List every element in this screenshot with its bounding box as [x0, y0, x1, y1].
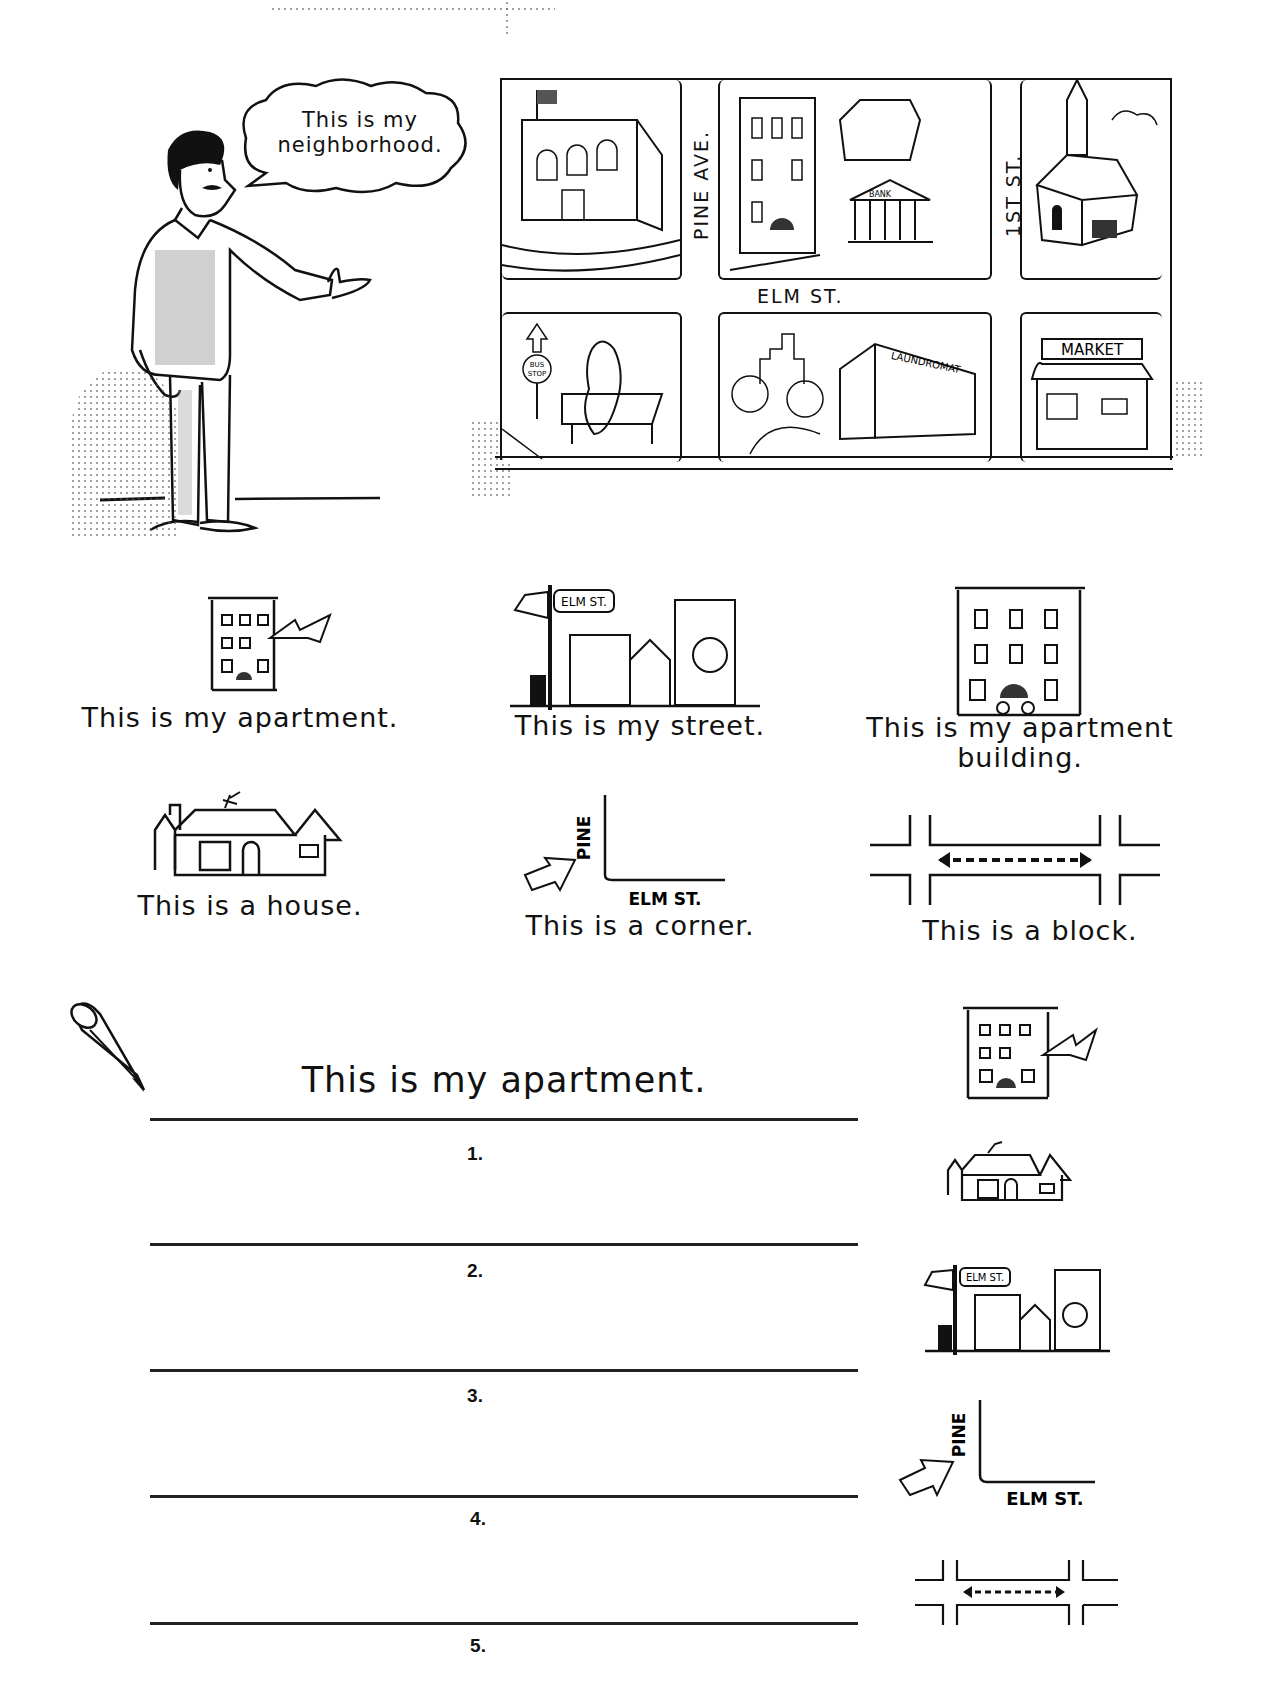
- laundromat-label: LAUNDROMAT: [890, 350, 962, 376]
- writing-line-2[interactable]: [150, 1369, 858, 1372]
- map-block-bus-stop: BUS STOP: [502, 312, 682, 462]
- caption-line-2: building.: [830, 743, 1210, 773]
- corner-icon: PINE ELM ST.: [520, 790, 770, 910]
- map-block-apartments-bank: BANK: [718, 80, 992, 280]
- map-shadow-right: [1168, 380, 1203, 460]
- map-block-park-laundromat: LAUNDROMAT: [718, 312, 992, 462]
- writing-line-1[interactable]: [150, 1243, 858, 1246]
- house-icon: [940, 1140, 1090, 1210]
- vocab-block: This is a block.: [860, 805, 1200, 965]
- neighborhood-map: PINE AVE. BANK 1ST ST. ELM ST. BUS STOP: [500, 78, 1172, 460]
- market-icon: MARKET: [1022, 314, 1162, 462]
- pencil-icon: [62, 1000, 157, 1100]
- speech-line-1: This is my: [255, 108, 465, 133]
- vocab-corner: PINE ELM ST. This is a corner.: [480, 790, 800, 960]
- caption-corner: This is a corner.: [480, 910, 800, 941]
- vocab-apartment: This is my apartment.: [50, 580, 430, 740]
- vocab-house: This is a house.: [80, 780, 420, 940]
- apartment-building-icon: [940, 580, 1100, 720]
- map-block-city-hall: [502, 80, 682, 280]
- church-icon: [1022, 80, 1162, 278]
- block-icon: [870, 810, 1190, 905]
- bus-stop-icon: BUS STOP: [502, 314, 680, 462]
- pine-label: PINE: [949, 1413, 969, 1458]
- bank-label: BANK: [869, 190, 892, 199]
- item-number-5: 5.: [458, 1635, 498, 1657]
- example-sentence: This is my apartment.: [150, 1060, 858, 1100]
- print-mark: [504, 0, 508, 36]
- speech-bubble-text: This is my neighborhood.: [255, 108, 465, 158]
- pine-label: PINE: [574, 816, 594, 861]
- park-laundromat-icon: LAUNDROMAT: [720, 314, 990, 462]
- corner-icon: PINE ELM ST.: [895, 1390, 1105, 1515]
- caption-apartment: This is my apartment.: [50, 702, 430, 733]
- vocab-apartment-building: This is my apartment building.: [830, 575, 1210, 790]
- bus-stop-label-2: STOP: [528, 370, 546, 378]
- map-block-church: [1020, 80, 1162, 280]
- print-mark: [270, 6, 555, 12]
- speech-line-2: neighborhood.: [255, 133, 465, 158]
- block-icon: [915, 1555, 1125, 1630]
- caption-apartment-building: This is my apartment building.: [830, 713, 1210, 773]
- street-icon: ELM ST.: [510, 580, 800, 715]
- shadow: [70, 370, 180, 540]
- street-icon: ELM ST.: [920, 1260, 1120, 1360]
- elm-sign-label: ELM ST.: [966, 1272, 1004, 1283]
- writing-line-example[interactable]: [150, 1118, 858, 1121]
- writing-line-3[interactable]: [150, 1495, 858, 1498]
- caption-street: This is my street.: [460, 710, 820, 741]
- bus-stop-label: BUS: [530, 361, 545, 369]
- item-number-1: 1.: [455, 1143, 495, 1165]
- elm-sign-label: ELM ST.: [561, 595, 607, 609]
- caption-line-1: This is my apartment: [830, 713, 1210, 743]
- apartment-icon: [200, 590, 350, 700]
- item-number-3: 3.: [455, 1385, 495, 1407]
- elm-corner-label: ELM ST.: [1006, 1488, 1083, 1509]
- elm-corner-label: ELM ST.: [629, 889, 702, 909]
- caption-house: This is a house.: [80, 890, 420, 921]
- market-label: MARKET: [1061, 341, 1124, 359]
- apartments-bank-icon: BANK: [720, 80, 990, 278]
- writing-line-4[interactable]: [150, 1622, 858, 1625]
- map-block-market: MARKET: [1020, 312, 1162, 462]
- item-number-4: 4.: [458, 1508, 498, 1530]
- caption-block: This is a block.: [860, 915, 1200, 946]
- street-label-elm-st: ELM ST.: [757, 285, 843, 307]
- map-base: [495, 456, 1173, 470]
- apartment-icon: [958, 1000, 1103, 1115]
- vocab-street: ELM ST. This is my street.: [460, 575, 820, 745]
- item-number-2: 2.: [455, 1260, 495, 1282]
- city-hall-icon: [502, 80, 680, 278]
- house-icon: [145, 790, 375, 890]
- street-label-pine-ave: PINE AVE.: [690, 105, 712, 265]
